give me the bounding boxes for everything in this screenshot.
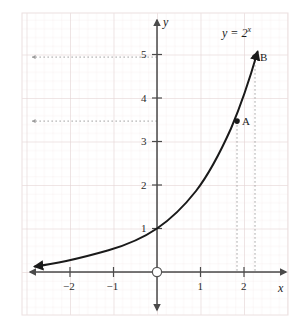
origin-marker bbox=[152, 267, 161, 276]
point-a-marker[interactable] bbox=[234, 118, 240, 124]
x-axis-label: x bbox=[278, 282, 283, 294]
x-tick-label-2: 2 bbox=[241, 281, 247, 292]
x-tick-label--2: −2 bbox=[63, 281, 75, 292]
exponential-function-graph: 1 2 3 4 5 −2 −1 1 2 x y A B y = 2x bbox=[0, 0, 304, 332]
x-tick-label--1: −1 bbox=[107, 281, 119, 292]
x-tick-label-1: 1 bbox=[198, 281, 204, 292]
curve-equation-base: y = 2 bbox=[222, 26, 247, 40]
y-tick-label-2: 2 bbox=[141, 180, 147, 191]
y-tick-label-3: 3 bbox=[141, 136, 147, 147]
point-a-label: A bbox=[242, 116, 250, 127]
y-axis-label: y bbox=[163, 16, 168, 28]
curve-equation-label: y = 2x bbox=[222, 26, 251, 39]
y-tick-label-5: 5 bbox=[141, 49, 147, 60]
point-b-marker[interactable] bbox=[252, 54, 258, 60]
y-tick-label-4: 4 bbox=[141, 93, 147, 104]
y-tick-label-1: 1 bbox=[141, 223, 147, 234]
point-b-label: B bbox=[260, 52, 267, 63]
curve-equation-exponent: x bbox=[247, 25, 251, 34]
plot-surface bbox=[0, 0, 304, 332]
